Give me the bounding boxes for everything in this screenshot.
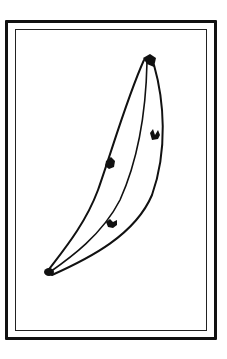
banana-drawing — [0, 0, 227, 359]
banana-left-edge — [47, 60, 144, 272]
banana-stem-icon — [143, 54, 156, 67]
banana-bottom-tip-icon — [44, 268, 54, 276]
banana-center-ridge — [50, 62, 147, 272]
banana-spot-icon — [150, 129, 160, 140]
